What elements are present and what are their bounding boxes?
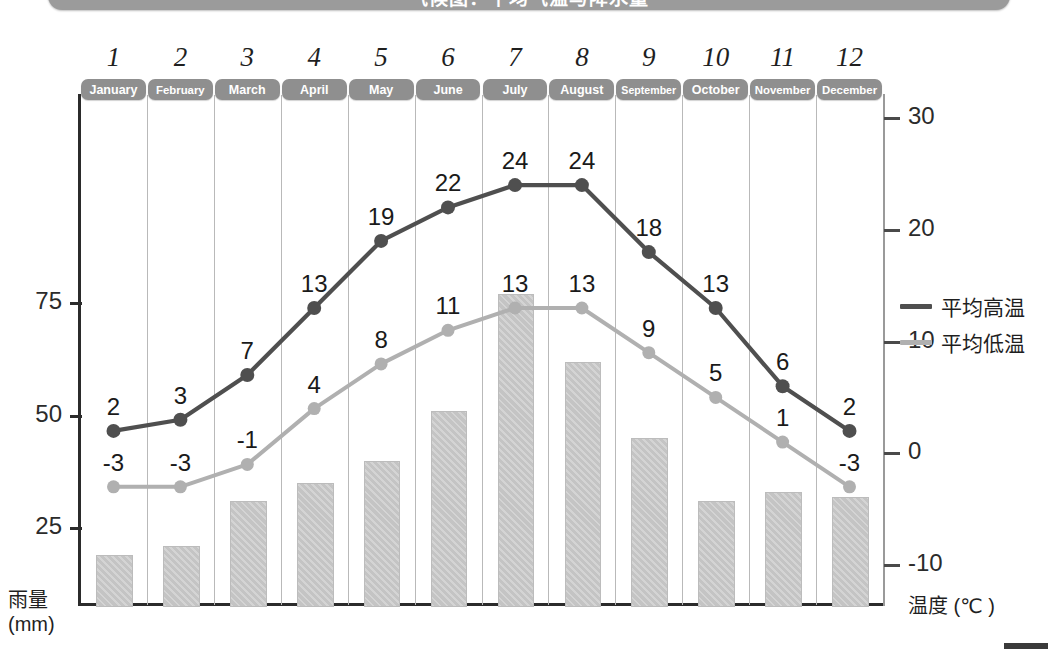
month-number: 9 [619,42,679,73]
month-pill: October [683,79,748,100]
month-pill: December [817,79,882,100]
y-tick-left [70,527,82,530]
low-temp-label: 13 [556,270,608,298]
month-pill: April [282,79,347,100]
month-pill: July [483,79,548,100]
high-temp-label: 22 [422,169,474,197]
corner-mark [1004,643,1048,649]
month-number: 11 [753,42,813,73]
precipitation-bar [364,461,401,608]
y-axis-left-label-line2: (mm) [8,612,55,636]
gridline [615,95,616,605]
y-tick-right [884,341,900,344]
month-number: 6 [418,42,478,73]
month-number: 1 [84,42,144,73]
gridline [682,95,683,605]
y-tick-right [884,117,900,120]
month-number: 7 [485,42,545,73]
month-pill: June [416,79,481,100]
y-tick-right-label: 0 [908,437,921,465]
gridline [816,95,817,605]
precipitation-bar [163,546,200,607]
month-number: 10 [686,42,746,73]
month-number: 4 [284,42,344,73]
high-temp-label: 19 [355,203,407,231]
y-tick-right [884,229,900,232]
high-temp-label: 7 [221,337,273,365]
low-temp-label: 11 [422,292,474,320]
legend-swatch-high [900,304,932,309]
y-tick-right [884,452,900,455]
chart-title-banner: 气候图：平均气温与降水量 [48,0,1010,10]
precipitation-bar [631,438,668,607]
precipitation-bar [498,294,535,607]
y-axis-left-label: 雨量 (mm) [8,588,55,636]
low-temp-label: -3 [824,449,876,477]
page-title: 气候图：平均气温与降水量 [409,0,649,10]
precipitation-bar [832,497,869,608]
legend-swatch-low [900,340,932,345]
low-temp-label: -1 [221,426,273,454]
month-pill: May [349,79,414,100]
low-temp-label: 5 [690,359,742,387]
y-tick-left [70,415,82,418]
month-pill: March [215,79,280,100]
gridline [348,95,349,605]
low-temp-label: 8 [355,326,407,354]
low-temp-label: 13 [489,270,541,298]
precipitation-bar [96,555,133,607]
month-pill: August [549,79,614,100]
low-temp-label: 9 [623,315,675,343]
high-temp-label: 13 [690,270,742,298]
y-tick-right-label: 20 [908,214,935,242]
low-temp-label: -3 [154,449,206,477]
y-tick-left-label: 75 [12,287,62,315]
y-tick-right [884,564,900,567]
gridline [214,95,215,605]
precipitation-bar [565,362,602,608]
low-temp-label: 1 [757,404,809,432]
legend-item-high: 平均高温 [900,288,1050,324]
high-temp-label: 3 [154,382,206,410]
high-temp-label: 24 [489,147,541,175]
gridline [147,95,148,605]
climate-chart: 气候图：平均气温与降水量 7550253020100-1012345678910… [0,0,1058,659]
high-temp-label: 6 [757,348,809,376]
month-number: 5 [351,42,411,73]
month-number: 3 [217,42,277,73]
month-number: 12 [820,42,880,73]
month-pill: September [616,79,681,100]
y-tick-left-label: 25 [12,512,62,540]
y-axis-left-label-line1: 雨量 [8,588,55,612]
y-tick-left-label: 50 [12,400,62,428]
high-temp-label: 2 [824,393,876,421]
legend-item-low: 平均低温 [900,324,1050,360]
gridline [482,95,483,605]
y-tick-right-label: -10 [908,549,943,577]
low-temp-label: 4 [288,371,340,399]
legend-label-low: 平均低温 [941,327,1025,357]
legend: 平均高温 平均低温 [900,288,1050,360]
high-temp-label: 18 [623,214,675,242]
gridline [749,95,750,605]
precipitation-bar [698,501,735,607]
month-pill: January [81,79,146,100]
precipitation-bar [431,411,468,607]
month-number: 2 [150,42,210,73]
high-temp-label: 2 [88,393,140,421]
gridline [548,95,549,605]
month-number: 8 [552,42,612,73]
gridline [281,95,282,605]
y-axis-right [883,94,885,606]
legend-label-high: 平均高温 [941,291,1025,321]
precipitation-bar [297,483,334,607]
high-temp-label: 13 [288,270,340,298]
y-tick-right-label: 30 [908,102,935,130]
y-tick-left [70,302,82,305]
y-axis-right-label: 温度 (℃ ) [908,590,995,619]
gridline [415,95,416,605]
precipitation-bar [230,501,267,607]
month-pill: February [148,79,213,100]
month-pill: November [750,79,815,100]
precipitation-bar [765,492,802,607]
